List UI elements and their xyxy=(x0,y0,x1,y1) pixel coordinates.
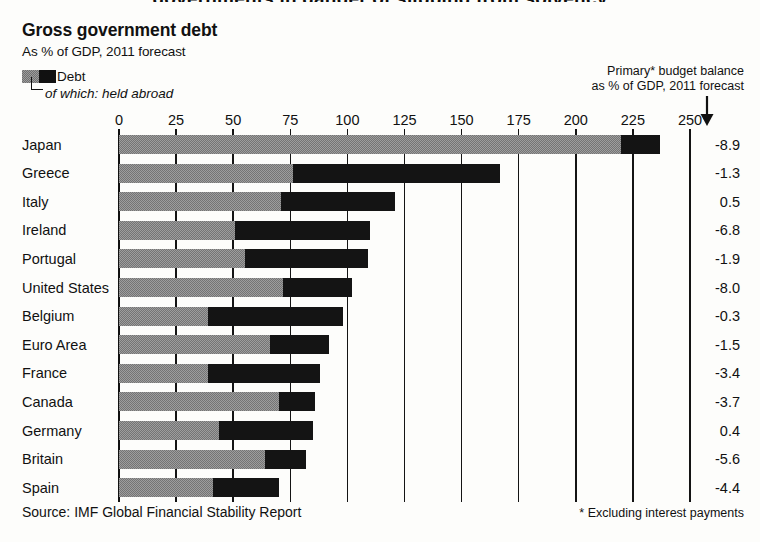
gridline-175 xyxy=(518,131,520,502)
x-tick-label-25: 25 xyxy=(168,112,184,128)
balance-value-united-states: -8.0 xyxy=(715,280,740,296)
x-tick-label-75: 75 xyxy=(282,112,298,128)
balance-value-germany: 0.4 xyxy=(720,423,740,439)
bar-held-abroad-japan xyxy=(621,135,660,154)
bar-held-abroad-britain xyxy=(265,450,306,469)
balance-value-japan: -8.9 xyxy=(715,137,740,153)
x-tick-label-175: 175 xyxy=(507,112,531,128)
bar-total-japan xyxy=(119,135,660,154)
category-label-greece: Greece xyxy=(22,165,70,181)
x-tick-label-100: 100 xyxy=(335,112,359,128)
x-tick-label-150: 150 xyxy=(449,112,473,128)
category-label-belgium: Belgium xyxy=(22,308,74,324)
balance-value-greece: -1.3 xyxy=(715,165,740,181)
bar-held-abroad-euro-area xyxy=(270,335,329,354)
gridline-200 xyxy=(575,131,577,502)
gridline-250 xyxy=(689,131,691,502)
x-tick-label-50: 50 xyxy=(225,112,241,128)
x-tick-label-125: 125 xyxy=(392,112,416,128)
balance-value-spain: -4.4 xyxy=(715,480,740,496)
plot-area: 0255075100125150175200225250Japan-8.9Gre… xyxy=(0,0,760,542)
gridline-100 xyxy=(347,131,349,502)
balance-value-ireland: -6.8 xyxy=(715,222,740,238)
category-label-germany: Germany xyxy=(22,423,82,439)
footnote: * Excluding interest payments xyxy=(579,506,744,520)
balance-value-france: -3.4 xyxy=(715,365,740,381)
chart-page: governments in danger of slipping from s… xyxy=(0,0,760,542)
bar-held-abroad-belgium xyxy=(208,307,343,326)
bar-held-abroad-spain xyxy=(213,478,279,497)
category-label-euro-area: Euro Area xyxy=(22,337,87,353)
balance-value-portugal: -1.9 xyxy=(715,251,740,267)
balance-value-belgium: -0.3 xyxy=(715,308,740,324)
category-label-ireland: Ireland xyxy=(22,222,66,238)
gridline-150 xyxy=(461,131,463,502)
x-tick-label-0: 0 xyxy=(115,112,123,128)
category-label-portugal: Portugal xyxy=(22,251,76,267)
category-label-britain: Britain xyxy=(22,451,63,467)
balance-value-britain: -5.6 xyxy=(715,451,740,467)
category-label-japan: Japan xyxy=(22,137,62,153)
gridline-125 xyxy=(404,131,406,502)
balance-value-euro-area: -1.5 xyxy=(715,337,740,353)
bar-held-abroad-germany xyxy=(219,421,313,440)
category-label-united-states: United States xyxy=(22,280,109,296)
source-note: Source: IMF Global Financial Stability R… xyxy=(22,504,301,520)
bar-held-abroad-greece xyxy=(293,164,501,183)
bar-held-abroad-france xyxy=(208,364,320,383)
category-label-spain: Spain xyxy=(22,480,59,496)
category-label-france: France xyxy=(22,365,67,381)
gridline-225 xyxy=(632,131,634,502)
balance-value-canada: -3.7 xyxy=(715,394,740,410)
bar-held-abroad-portugal xyxy=(245,249,368,268)
bar-held-abroad-italy xyxy=(281,192,395,211)
x-tick-label-250: 250 xyxy=(678,112,702,128)
bar-held-abroad-united-states xyxy=(283,278,352,297)
category-label-canada: Canada xyxy=(22,394,73,410)
bar-held-abroad-canada xyxy=(279,392,316,411)
bar-held-abroad-ireland xyxy=(235,221,370,240)
x-tick-label-200: 200 xyxy=(564,112,588,128)
balance-value-italy: 0.5 xyxy=(720,194,740,210)
x-tick-label-225: 225 xyxy=(621,112,645,128)
category-label-italy: Italy xyxy=(22,194,49,210)
